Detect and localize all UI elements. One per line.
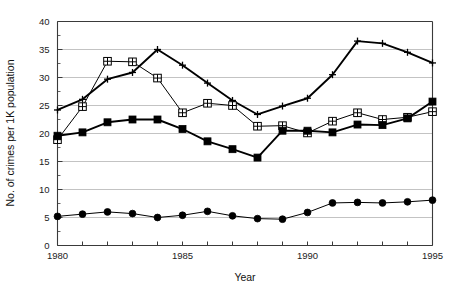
marker-cross-in-square <box>129 58 137 66</box>
marker-filled-square <box>404 115 411 122</box>
y-tick-label: 5 <box>44 212 49 223</box>
marker-filled-circle <box>304 209 311 216</box>
marker-filled-square <box>329 129 336 136</box>
y-tick-label: 40 <box>39 16 50 27</box>
x-axis-title: Year <box>234 271 256 283</box>
marker-plus <box>429 59 436 66</box>
x-tick-label: 1980 <box>47 250 68 261</box>
marker-filled-circle <box>254 215 261 222</box>
marker-cross-in-square <box>104 57 112 65</box>
marker-filled-square <box>129 116 136 123</box>
marker-plus <box>54 106 61 113</box>
y-tick-label: 25 <box>39 100 50 111</box>
marker-filled-square <box>79 129 86 136</box>
marker-filled-square <box>429 98 436 105</box>
marker-cross-in-square <box>429 108 437 116</box>
marker-filled-circle <box>279 216 286 223</box>
marker-filled-square <box>54 132 61 139</box>
crime-rate-line-chart: 0510152025303540 1980198519901995 Year N… <box>0 0 453 293</box>
y-axis-tick-labels: 0510152025303540 <box>39 16 50 251</box>
marker-filled-circle <box>154 214 161 221</box>
marker-filled-circle <box>129 210 136 217</box>
marker-filled-square <box>254 154 261 161</box>
marker-plus <box>404 49 411 56</box>
marker-cross-in-square <box>254 122 262 130</box>
marker-filled-circle <box>204 208 211 215</box>
marker-filled-circle <box>229 212 236 219</box>
marker-filled-square <box>229 146 236 153</box>
marker-filled-square <box>104 119 111 126</box>
marker-filled-square <box>279 127 286 134</box>
marker-cross-in-square <box>329 117 337 125</box>
x-tick-label: 1990 <box>297 250 318 261</box>
x-tick-label: 1985 <box>172 250 193 261</box>
marker-filled-circle <box>354 199 361 206</box>
marker-filled-circle <box>179 212 186 219</box>
marker-filled-circle <box>104 209 111 216</box>
series-line <box>58 200 433 219</box>
marker-filled-square <box>379 122 386 129</box>
marker-filled-square <box>179 126 186 133</box>
marker-cross-in-square <box>79 103 87 111</box>
marker-filled-circle <box>329 200 336 207</box>
marker-plus <box>279 103 286 110</box>
y-tick-label: 30 <box>39 72 50 83</box>
marker-cross-in-square <box>354 109 362 117</box>
marker-plus <box>379 40 386 47</box>
x-tick-label: 1995 <box>422 250 443 261</box>
series-line <box>58 61 433 139</box>
marker-filled-square <box>304 127 311 134</box>
grid-lines <box>58 22 433 218</box>
marker-cross-in-square <box>179 109 187 117</box>
marker-filled-square <box>154 116 161 123</box>
series-series-filled-circle <box>54 197 436 223</box>
marker-filled-circle <box>429 197 436 204</box>
series-line <box>58 102 433 158</box>
marker-filled-circle <box>54 213 61 220</box>
marker-cross-in-square <box>154 74 162 82</box>
chart-container: 0510152025303540 1980198519901995 Year N… <box>0 0 453 293</box>
data-series-group <box>54 38 437 223</box>
y-tick-label: 35 <box>39 44 50 55</box>
marker-filled-circle <box>379 200 386 207</box>
y-axis-title: No. of crimes per 1K population <box>4 59 16 206</box>
marker-filled-circle <box>404 198 411 205</box>
marker-filled-circle <box>79 211 86 218</box>
marker-cross-in-square <box>204 99 212 107</box>
marker-filled-square <box>204 138 211 145</box>
y-tick-label: 10 <box>39 184 50 195</box>
y-tick-label: 15 <box>39 156 50 167</box>
y-tick-label: 20 <box>39 128 50 139</box>
series-series-open-square <box>54 57 437 143</box>
x-axis-tick-labels: 1980198519901995 <box>47 250 443 261</box>
marker-cross-in-square <box>229 102 237 110</box>
marker-filled-square <box>354 121 361 128</box>
